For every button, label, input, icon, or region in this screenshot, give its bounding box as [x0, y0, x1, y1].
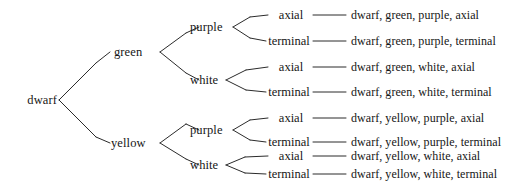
branch-white1-to-axial-tail — [246, 67, 268, 70]
probability-tree-diagram: dwarf green yellow purple white purple w… — [0, 0, 530, 191]
leaf-label-8: terminal — [268, 168, 310, 181]
leaf-label-7: axial — [279, 150, 303, 163]
branch-white1-to-terminal — [226, 80, 246, 90]
leaf-label-4: terminal — [268, 86, 310, 99]
branch-purple2-to-axial-tail — [250, 118, 268, 120]
node-level2-yellow: yellow — [111, 137, 146, 150]
branch-purple2-to-axial — [233, 120, 250, 130]
branch-green-to-white — [160, 52, 186, 73]
branch-purple2-to-terminal-tail — [250, 140, 266, 142]
leaf-label-6: terminal — [268, 136, 310, 149]
node-level3-purple-yellow: purple — [190, 124, 223, 137]
branch-dwarf-to-green — [59, 63, 96, 100]
outcome-row-1: dwarf, green, purple, axial — [351, 9, 479, 21]
branch-yellow-to-purple — [160, 124, 186, 143]
branch-purple1-to-terminal-tail — [250, 38, 266, 41]
branch-white2-to-axial — [226, 157, 245, 165]
branch-white2-to-terminal — [226, 165, 245, 173]
branch-white1-to-terminal-tail — [246, 90, 266, 92]
leaf-label-5: axial — [279, 112, 303, 125]
outcome-row-6: dwarf, yellow, purple, terminal — [351, 136, 501, 148]
branch-purple2-to-terminal — [233, 130, 250, 140]
outcome-row-3: dwarf, green, white, axial — [351, 61, 475, 73]
outcome-row-8: dwarf, yellow, white, terminal — [351, 168, 497, 180]
branch-white1-to-axial — [226, 70, 246, 80]
node-level2-green: green — [114, 46, 142, 59]
outcome-row-7: dwarf, yellow, white, axial — [351, 150, 480, 162]
branch-green-to-purple — [160, 33, 186, 52]
outcome-row-5: dwarf, yellow, purple, axial — [351, 112, 484, 124]
branch-purple1-to-axial-tail — [250, 15, 268, 17]
leaf-label-1: axial — [279, 9, 303, 22]
branch-purple1-to-axial — [233, 17, 250, 27]
outcome-row-2: dwarf, green, purple, terminal — [351, 35, 496, 47]
branch-purple1-to-terminal — [233, 27, 250, 38]
outcome-row-4: dwarf, green, white, terminal — [351, 86, 492, 98]
node-level3-purple-green: purple — [190, 21, 223, 34]
leaf-label-2: terminal — [268, 35, 310, 48]
branch-yellow-to-white — [160, 143, 186, 159]
branch-white2-to-terminal-tail — [245, 173, 266, 174]
leaf-label-3: axial — [279, 61, 303, 74]
branch-dwarf-to-green-tail — [96, 52, 110, 63]
node-level3-white-green: white — [190, 74, 218, 87]
node-root-dwarf: dwarf — [27, 94, 57, 107]
node-level3-white-yellow: white — [190, 159, 218, 172]
branch-white2-to-axial-tail — [245, 156, 268, 157]
branch-dwarf-to-yellow-tail — [96, 137, 110, 143]
branch-dwarf-to-yellow — [59, 100, 96, 137]
